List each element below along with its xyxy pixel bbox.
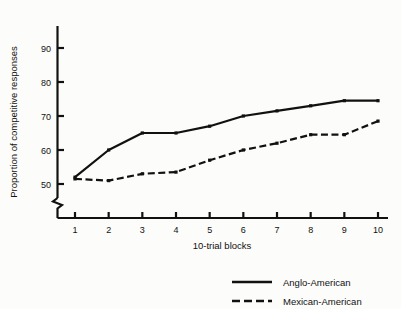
data-point — [174, 171, 177, 174]
y-tick-label: 70 — [41, 112, 51, 122]
data-point — [107, 179, 110, 182]
data-point — [275, 109, 278, 112]
y-tick-label: 90 — [41, 44, 51, 54]
x-axis-title: 10-trial blocks — [193, 240, 252, 251]
y-axis-title: Proportion of competitive responses — [8, 46, 19, 198]
legend-label-2: Mexican-American — [283, 296, 362, 307]
line-chart: 5060708090 12345678910 10-trial blocks P… — [0, 0, 401, 309]
data-point — [275, 142, 278, 145]
x-tick-label: 5 — [207, 225, 212, 235]
data-point — [107, 148, 110, 151]
x-tick-label: 9 — [342, 225, 347, 235]
data-point — [309, 104, 312, 107]
y-tick-label: 60 — [41, 146, 51, 156]
x-tick-label: 6 — [241, 225, 246, 235]
data-point — [208, 159, 211, 162]
x-tick-label: 4 — [173, 225, 178, 235]
chart-background — [0, 0, 401, 309]
data-point — [242, 114, 245, 117]
x-tick-label: 3 — [140, 225, 145, 235]
data-point — [73, 177, 76, 180]
data-point — [174, 131, 177, 134]
data-point — [141, 131, 144, 134]
legend-label-1: Anglo-American — [283, 277, 351, 288]
data-point — [343, 99, 346, 102]
data-point — [376, 120, 379, 123]
y-tick-label: 50 — [41, 180, 51, 190]
x-tick-label: 7 — [274, 225, 279, 235]
x-tick-label: 2 — [106, 225, 111, 235]
data-point — [309, 133, 312, 136]
data-point — [242, 148, 245, 151]
x-tick-label: 8 — [308, 225, 313, 235]
x-tick-label: 1 — [72, 225, 77, 235]
data-point — [343, 133, 346, 136]
x-tick-label: 10 — [373, 225, 383, 235]
data-point — [208, 125, 211, 128]
data-point — [141, 172, 144, 175]
data-point — [376, 99, 379, 102]
y-tick-label: 80 — [41, 78, 51, 88]
figure-canvas: 5060708090 12345678910 10-trial blocks P… — [0, 0, 401, 309]
